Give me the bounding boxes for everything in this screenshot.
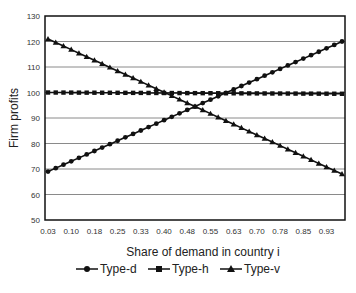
y-tick-label: 110 bbox=[27, 63, 40, 72]
x-tick-label: 0.55 bbox=[203, 227, 219, 236]
legend-label: Type-h bbox=[172, 262, 209, 276]
y-tick-label: 60 bbox=[31, 191, 40, 200]
y-axis-ticks: 5060708090100110120130 bbox=[27, 12, 41, 225]
x-tick-label: 0.93 bbox=[319, 227, 335, 236]
legend: Type-d Type-h Type-v bbox=[0, 262, 356, 277]
legend-item-type-h: Type-h bbox=[148, 262, 209, 276]
x-tick-label: 0.40 bbox=[156, 227, 172, 236]
x-tick-label: 0.33 bbox=[133, 227, 149, 236]
x-tick-label: 0.48 bbox=[179, 227, 195, 236]
series-type-h bbox=[46, 90, 344, 96]
legend-item-type-d: Type-d bbox=[76, 262, 137, 276]
gridlines bbox=[45, 42, 345, 195]
y-tick-label: 80 bbox=[31, 140, 40, 149]
triangle-marker-icon bbox=[220, 264, 242, 274]
y-tick-label: 120 bbox=[27, 38, 41, 47]
x-axis-ticks: 0.030.100.180.250.330.400.480.550.630.70… bbox=[40, 227, 335, 236]
x-tick-label: 0.78 bbox=[272, 227, 288, 236]
legend-item-type-v: Type-v bbox=[220, 262, 280, 276]
line-chart: 5060708090100110120130 0.030.100.180.250… bbox=[0, 0, 356, 260]
x-tick-label: 0.63 bbox=[226, 227, 242, 236]
y-tick-label: 100 bbox=[27, 89, 41, 98]
square-marker-icon bbox=[148, 264, 170, 274]
legend-label: Type-d bbox=[100, 262, 137, 276]
x-tick-label: 0.18 bbox=[87, 227, 103, 236]
y-tick-label: 50 bbox=[31, 216, 40, 225]
y-tick-label: 70 bbox=[31, 165, 40, 174]
x-tick-label: 0.10 bbox=[63, 227, 79, 236]
legend-label: Type-v bbox=[244, 262, 280, 276]
x-tick-label: 0.70 bbox=[249, 227, 265, 236]
series-type-v bbox=[45, 36, 345, 176]
data-series bbox=[45, 36, 345, 176]
x-axis-title: Share of demand in country i bbox=[126, 245, 279, 259]
x-tick-label: 0.25 bbox=[110, 227, 126, 236]
y-axis-title: Firm profits bbox=[7, 88, 21, 148]
circle-marker-icon bbox=[76, 264, 98, 274]
y-tick-label: 130 bbox=[27, 12, 41, 21]
x-tick-label: 0.03 bbox=[40, 227, 56, 236]
x-tick-label: 0.85 bbox=[296, 227, 312, 236]
y-tick-label: 90 bbox=[31, 114, 40, 123]
